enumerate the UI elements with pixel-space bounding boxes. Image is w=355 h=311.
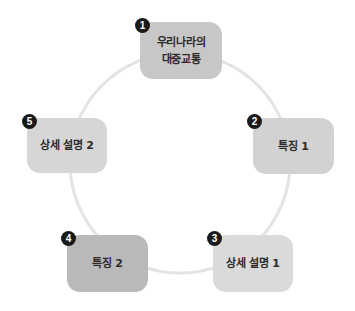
- badge-number: 2: [252, 116, 258, 127]
- node-label: 특징 1: [278, 138, 308, 155]
- badge-number: 1: [140, 20, 146, 31]
- cycle-node-1: 우리나라의 대중교통: [140, 22, 222, 79]
- node-label: 상세 설명 1: [226, 255, 279, 272]
- node-label: 우리나라의 대중교통: [157, 34, 206, 68]
- step-badge-4: 4: [61, 231, 76, 246]
- badge-number: 3: [212, 233, 218, 244]
- cycle-node-3: 상세 설명 1: [213, 235, 293, 292]
- cycle-node-5: 상세 설명 2: [27, 118, 107, 173]
- node-label: 상세 설명 2: [40, 137, 93, 154]
- cycle-node-4: 특징 2: [67, 235, 148, 292]
- badge-number: 5: [27, 116, 33, 127]
- step-badge-2: 2: [247, 114, 262, 129]
- step-badge-3: 3: [207, 231, 222, 246]
- step-badge-5: 5: [22, 114, 37, 129]
- badge-number: 4: [66, 233, 72, 244]
- cycle-node-2: 특징 1: [253, 118, 334, 174]
- step-badge-1: 1: [135, 18, 150, 33]
- node-label: 특징 2: [92, 255, 122, 272]
